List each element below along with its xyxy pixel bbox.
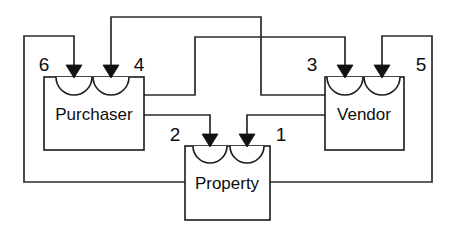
port-label-4: 4 <box>134 54 145 75</box>
port-label-3: 3 <box>307 54 318 75</box>
arrowhead-port-5 <box>374 65 390 78</box>
arrowhead-port-4 <box>103 65 119 78</box>
port-label-5: 5 <box>416 54 427 75</box>
port-label-2: 2 <box>170 124 181 145</box>
component-vendor-label: Vendor <box>337 105 391 124</box>
component-purchaser[interactable]: Purchaser <box>44 77 144 150</box>
arrowhead-port-3 <box>337 65 353 78</box>
component-property[interactable]: Property <box>185 146 270 220</box>
component-vendor[interactable]: Vendor <box>325 77 404 150</box>
arrowhead-port-1 <box>239 134 255 147</box>
component-property-label: Property <box>195 174 260 193</box>
component-connector-diagram: Purchaser Property Vendor <box>0 0 454 237</box>
diagram-canvas: Purchaser Property Vendor <box>0 0 454 237</box>
component-purchaser-label: Purchaser <box>55 105 133 124</box>
arrowhead-port-2 <box>202 134 218 147</box>
port-label-1: 1 <box>276 124 287 145</box>
arrowhead-port-6 <box>66 65 82 78</box>
component-layer: Purchaser Property Vendor <box>44 77 404 220</box>
port-label-6: 6 <box>39 54 50 75</box>
